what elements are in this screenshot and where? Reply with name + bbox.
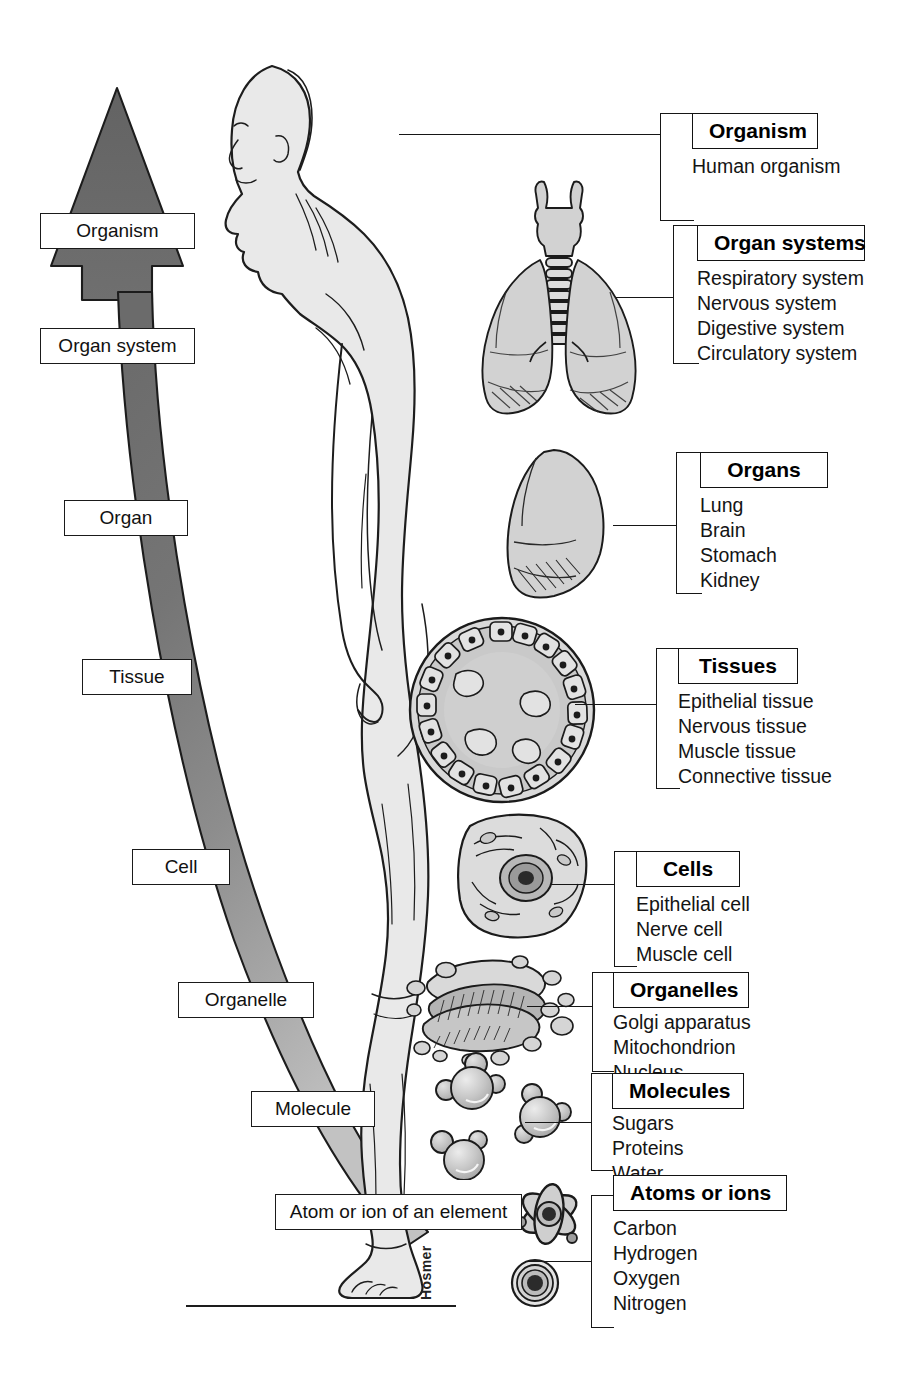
item-list-tissues: Epithelial tissue Nervous tissue Muscle … (678, 689, 832, 788)
level-label-organism: Organism (40, 213, 195, 249)
list-item: Carbon (613, 1216, 787, 1241)
item-list-organs: Lung Brain Stomach Kidney (700, 493, 828, 592)
list-item: Respiratory system (697, 266, 865, 291)
tissue-cross-section-art (404, 612, 600, 808)
leader-atoms-or-ions (527, 1261, 592, 1262)
item-list-cells: Epithelial cell Nerve cell Muscle cell (636, 892, 750, 967)
list-item: Muscle tissue (678, 739, 832, 764)
bracket-molecules (591, 1073, 613, 1171)
level-label-tissue: Tissue (82, 659, 192, 695)
level-label-organelle: Organelle (178, 982, 314, 1018)
list-item: Nervous tissue (678, 714, 832, 739)
callout-organs: Organs Lung Brain Stomach Kidney (700, 452, 828, 592)
callout-molecules: Molecules Sugars Proteins Water (612, 1073, 744, 1186)
list-item: Epithelial tissue (678, 689, 832, 714)
list-item: Mitochondrion (613, 1035, 751, 1060)
list-item: Sugars (612, 1111, 744, 1136)
respiratory-system-art (476, 176, 656, 422)
category-box-organs: Organs (700, 452, 828, 488)
bracket-organelles (592, 972, 614, 1072)
item-list-organ-systems: Respiratory system Nervous system Digest… (697, 266, 865, 365)
level-label-organ-system: Organ system (40, 328, 195, 364)
list-item: Human organism (692, 154, 840, 179)
bracket-tissues (656, 648, 680, 789)
list-item: Nervous system (697, 291, 865, 316)
leader-organ-systems (616, 297, 674, 298)
callout-organelles: Organelles Golgi apparatus Mitochondrion… (613, 972, 751, 1085)
lung-organ-art (500, 446, 630, 604)
ion-art (508, 1256, 562, 1310)
callout-cells: Cells Epithelial cell Nerve cell Muscle … (636, 851, 750, 967)
category-box-organelles: Organelles (613, 972, 749, 1008)
list-item: Lung (700, 493, 828, 518)
list-item: Nerve cell (636, 917, 750, 942)
list-item: Connective tissue (678, 764, 832, 789)
list-item: Proteins (612, 1136, 744, 1161)
leader-organelles (527, 1006, 593, 1007)
list-item: Golgi apparatus (613, 1010, 751, 1035)
category-box-atoms-or-ions: Atoms or ions (613, 1175, 787, 1211)
list-item: Circulatory system (697, 341, 865, 366)
diagram-canvas: Organism Organ system Organ Tissue Cell … (0, 0, 904, 1393)
list-item: Epithelial cell (636, 892, 750, 917)
leader-organism (399, 134, 661, 135)
callout-tissues: Tissues Epithelial tissue Nervous tissue… (678, 648, 832, 788)
artist-signature: Hosmer (418, 1245, 434, 1300)
category-box-organ-systems: Organ systems (697, 225, 865, 261)
list-item: Nitrogen (613, 1291, 787, 1316)
level-label-atom-or-ion: Atom or ion of an element (275, 1194, 522, 1230)
leader-organs (613, 525, 677, 526)
list-item: Digestive system (697, 316, 865, 341)
cell-art (444, 808, 604, 944)
item-list-organism: Human organism (692, 154, 840, 179)
leader-tissues (575, 704, 657, 705)
leader-molecules (525, 1122, 592, 1123)
bracket-organs (676, 452, 702, 594)
list-item: Stomach (700, 543, 828, 568)
callout-atoms-or-ions: Atoms or ions Carbon Hydrogen Oxygen Nit… (613, 1175, 787, 1315)
list-item: Oxygen (613, 1266, 787, 1291)
level-label-cell: Cell (132, 849, 230, 885)
leader-cells (551, 884, 615, 885)
callout-organ-systems: Organ systems Respiratory system Nervous… (697, 225, 865, 365)
bracket-organ-systems (673, 225, 699, 364)
category-box-organism: Organism (692, 113, 818, 149)
bracket-organism (660, 113, 694, 221)
list-item: Muscle cell (636, 942, 750, 967)
category-box-molecules: Molecules (612, 1073, 744, 1109)
list-item: Kidney (700, 568, 828, 593)
bracket-atoms-or-ions (591, 1195, 614, 1328)
molecule-art (420, 1046, 590, 1180)
list-item: Brain (700, 518, 828, 543)
level-label-organ: Organ (64, 500, 188, 536)
list-item: Hydrogen (613, 1241, 787, 1266)
category-box-cells: Cells (636, 851, 740, 887)
item-list-atoms-or-ions: Carbon Hydrogen Oxygen Nitrogen (613, 1216, 787, 1315)
callout-organism: Organism Human organism (692, 113, 840, 179)
bracket-cells (614, 851, 637, 967)
category-box-tissues: Tissues (678, 648, 798, 684)
level-label-molecule: Molecule (251, 1091, 375, 1127)
